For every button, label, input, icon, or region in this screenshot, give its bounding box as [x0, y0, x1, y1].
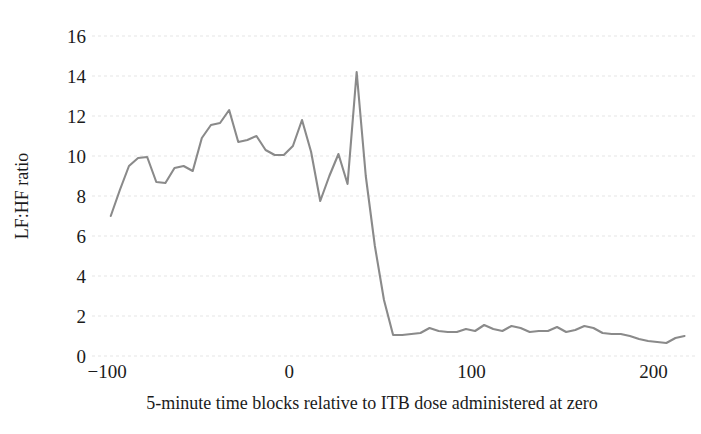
y-tick-label-12: 12: [67, 106, 86, 127]
y-tick-label-6: 6: [77, 226, 87, 247]
x-tick-label--100: −100: [87, 361, 126, 382]
line-chart-canvas: 0246810121416 −1000100200 LF:HF ratio 5-…: [0, 0, 701, 434]
y-axis-title: LF:HF ratio: [12, 153, 32, 240]
chart-figure: 0246810121416 −1000100200 LF:HF ratio 5-…: [0, 0, 701, 434]
y-tick-label-0: 0: [77, 346, 87, 367]
y-tick-label-14: 14: [67, 66, 87, 87]
x-axis-title: 5-minute time blocks relative to ITB dos…: [146, 393, 597, 413]
x-tick-label-100: 100: [457, 361, 486, 382]
x-tick-label-200: 200: [639, 361, 668, 382]
y-tick-label-2: 2: [77, 306, 87, 327]
y-tick-label-4: 4: [77, 266, 87, 287]
y-tick-label-10: 10: [67, 146, 86, 167]
x-tick-label-0: 0: [285, 361, 295, 382]
y-tick-label-16: 16: [67, 26, 86, 47]
y-tick-label-8: 8: [77, 186, 87, 207]
